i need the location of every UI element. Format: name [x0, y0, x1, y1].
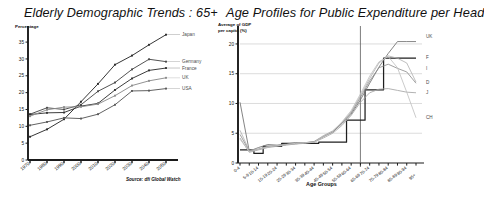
y-tick-label: 20 [229, 42, 235, 47]
series-label-d: D [426, 80, 430, 85]
y-tick-label: 10 [19, 124, 25, 129]
data-point-marker [131, 85, 133, 87]
data-point-marker [114, 64, 116, 66]
series-line-germany [30, 59, 166, 114]
x-tick-label: 30-34 [285, 165, 297, 176]
data-point-marker [148, 69, 150, 71]
data-point-marker [148, 80, 150, 82]
series-label-ch: CH [426, 115, 433, 120]
series-label-germany: Germany [182, 59, 202, 64]
y-tick-label: 15 [229, 71, 235, 76]
data-point-marker [29, 114, 31, 116]
data-point-marker [148, 58, 150, 60]
x-tick-label: 2030 [121, 161, 133, 172]
x-tick-label: 0-4 [233, 165, 241, 173]
source-annotation: Source: dfi Global Watch [126, 177, 181, 182]
data-point-marker [80, 118, 82, 120]
data-point-marker [97, 83, 99, 85]
plot-area-left: 0510152025303519701980199020002010202020… [0, 0, 224, 200]
series-label-japan: Japan [182, 32, 195, 37]
x-tick-label: 2020 [104, 161, 116, 172]
data-point-marker [114, 82, 116, 84]
x-tick-label: 2050 [155, 161, 167, 172]
y-tick-label: 0 [231, 161, 234, 166]
line-chart-left: 0510152025303519701980199020002010202020… [0, 0, 224, 200]
data-point-marker [114, 95, 116, 97]
y-tick-label: 35 [19, 40, 25, 45]
y-tick-label: 25 [19, 73, 25, 78]
data-point-marker [46, 107, 48, 109]
x-tick-label: 1990 [53, 161, 65, 172]
data-point-marker [46, 121, 48, 123]
data-point-marker [29, 136, 31, 138]
data-point-marker [46, 128, 48, 130]
series-label-f: F [426, 55, 429, 60]
data-point-marker [97, 103, 99, 105]
data-point-marker [131, 90, 133, 92]
x-tick-label: 1980 [36, 161, 48, 172]
chart-panel-elderly-demographic-trends: Elderly Demographic Trends : 65+ Percent… [0, 0, 224, 200]
y-tick-label: 0 [21, 158, 24, 163]
x-tick-label: 2000 [70, 161, 82, 172]
x-tick-label: 90-94 [396, 165, 408, 176]
x-tick-label: 40-44 [303, 165, 315, 176]
y-tick-label: 30 [19, 57, 25, 62]
series-label-j: J [426, 90, 428, 95]
series-line-ch [240, 56, 416, 151]
data-point-marker [46, 112, 48, 114]
y-tick-label: 5 [231, 131, 234, 136]
x-tick-label: 2040 [138, 161, 150, 172]
series-line-usa [30, 89, 166, 126]
data-point-marker [131, 78, 133, 80]
y-tick-label: 20 [19, 90, 25, 95]
y-tick-label: 15 [19, 107, 25, 112]
data-point-marker [63, 112, 65, 114]
x-tick-label: 10-14 [248, 165, 260, 176]
x-tick-label: 95+ [408, 172, 417, 181]
series-line-uk [240, 58, 416, 153]
series-label-france: France [182, 66, 197, 71]
line-chart-right: 051015200-45-910-1415-1920-2425-2930-343… [210, 0, 448, 200]
series-line-i [240, 56, 416, 151]
series-label-uk: UK [426, 34, 433, 39]
data-point-marker [97, 113, 99, 115]
x-tick-label: 60-64 [340, 165, 352, 176]
data-point-marker [46, 109, 48, 111]
data-point-marker [148, 44, 150, 46]
x-tick-label: 2010 [87, 161, 99, 172]
x-tick-label: 20-24 [266, 165, 278, 176]
chart-panel-age-profiles: Age Profiles for Public Expenditure per … [210, 0, 448, 200]
x-axis-title-right: Age Groups [306, 181, 337, 187]
data-point-marker [63, 117, 65, 119]
data-point-marker [80, 101, 82, 103]
data-point-marker [114, 104, 116, 106]
x-tick-label: 50-54 [322, 165, 334, 176]
series-line-d [240, 64, 416, 151]
data-point-marker [114, 89, 116, 91]
plot-area-right: 051015200-45-910-1415-1920-2425-2930-343… [210, 0, 448, 200]
series-label-i: I [426, 66, 427, 71]
series-label-usa: USA [182, 86, 193, 91]
x-tick-label: 80-84 [377, 165, 389, 176]
y-tick-label: 5 [21, 141, 24, 146]
data-point-marker [63, 106, 65, 108]
data-point-marker [63, 109, 65, 111]
data-point-marker [131, 55, 133, 57]
data-point-marker [131, 68, 133, 70]
data-point-marker [29, 124, 31, 126]
y-tick-label: 10 [229, 101, 235, 106]
data-point-marker [80, 106, 82, 108]
data-point-marker [148, 90, 150, 92]
data-point-marker [97, 90, 99, 92]
series-label-uk: UK [182, 75, 189, 80]
data-point-marker [29, 115, 31, 117]
